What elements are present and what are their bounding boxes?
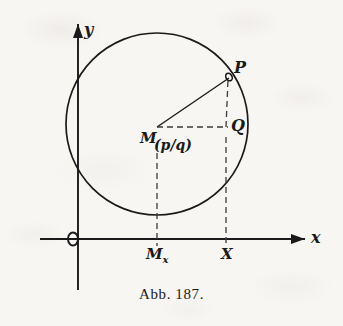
tick-label-x: X bbox=[221, 247, 233, 262]
x-axis-arrowhead bbox=[291, 234, 305, 244]
tick-label-mx: Mx bbox=[146, 247, 169, 265]
geometry-diagram bbox=[0, 0, 343, 326]
point-label-Q: Q bbox=[231, 118, 245, 134]
tick-label-mx-subscript: x bbox=[163, 254, 169, 265]
origin-label: O bbox=[64, 230, 77, 245]
figure-container: y x O P Q M (p/q) Mx X Abb. 187. bbox=[0, 0, 343, 326]
point-label-P: P bbox=[234, 60, 246, 76]
figure-caption: Abb. 187. bbox=[0, 286, 343, 303]
radius-segment-MP bbox=[157, 78, 229, 127]
dashed-line-Q-to-P bbox=[226, 80, 228, 127]
point-coords-M: (p/q) bbox=[154, 138, 192, 152]
y-axis-arrowhead bbox=[73, 24, 83, 38]
y-axis-label: y bbox=[84, 22, 93, 38]
x-axis-label: x bbox=[311, 230, 321, 246]
tick-label-mx-base: M bbox=[146, 245, 163, 263]
